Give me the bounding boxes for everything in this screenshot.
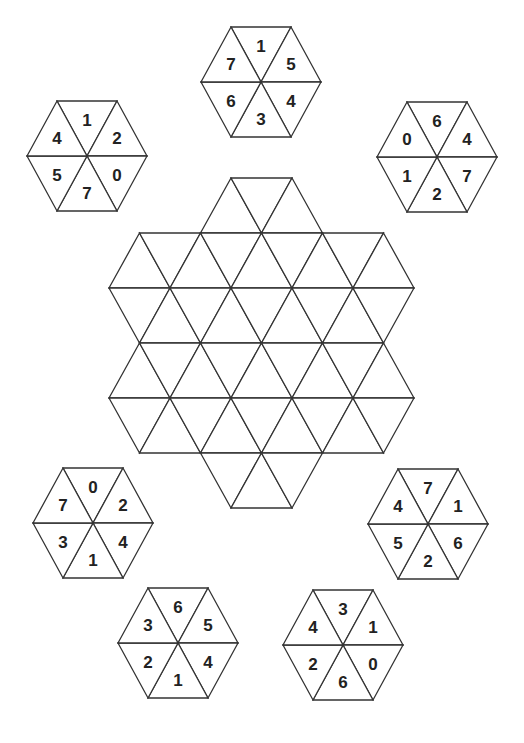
tile-digit: 1 xyxy=(82,111,91,130)
tile-digit: 3 xyxy=(143,616,152,635)
tile-digit: 6 xyxy=(173,598,182,617)
tile-digit: 4 xyxy=(393,497,403,516)
tile-digit: 0 xyxy=(112,166,121,185)
tile-digit: 2 xyxy=(432,185,441,204)
tile-digit: 2 xyxy=(308,655,317,674)
tile-digit: 5 xyxy=(393,534,402,553)
tile-digit: 3 xyxy=(58,533,67,552)
tile-lower-right[interactable]: 716254 xyxy=(368,469,488,579)
tile-digit: 6 xyxy=(432,112,441,131)
tile-digit: 6 xyxy=(453,534,462,553)
tile-digit: 0 xyxy=(88,478,97,497)
tile-digit: 1 xyxy=(256,37,265,56)
central-triangle-grid xyxy=(109,178,414,508)
tile-digit: 0 xyxy=(402,130,411,149)
tile-digit: 4 xyxy=(308,618,318,637)
tile-lower-left[interactable]: 024137 xyxy=(33,468,153,578)
tile-digit: 7 xyxy=(58,496,67,515)
tile-digit: 1 xyxy=(173,671,182,690)
tile-digit: 4 xyxy=(286,92,296,111)
tile-digit: 5 xyxy=(286,55,295,74)
tile-digit: 4 xyxy=(203,653,213,672)
tile-digit: 5 xyxy=(203,616,212,635)
tile-digit: 5 xyxy=(52,166,61,185)
tile-digit: 4 xyxy=(118,533,128,552)
tile-digit: 4 xyxy=(462,130,472,149)
tile-upper-left[interactable]: 120754 xyxy=(27,101,147,211)
tile-digit: 7 xyxy=(462,167,471,186)
tile-digit: 7 xyxy=(423,479,432,498)
tile-digit: 2 xyxy=(143,653,152,672)
tile-digit: 4 xyxy=(52,129,62,148)
puzzle-canvas: 1543671207546472100241377162546541233106… xyxy=(0,0,524,743)
tile-digit: 6 xyxy=(338,673,347,692)
tile-digit: 1 xyxy=(402,167,411,186)
tile-top[interactable]: 154367 xyxy=(201,27,321,137)
tile-digit: 7 xyxy=(226,55,235,74)
tile-digit: 2 xyxy=(118,496,127,515)
tile-upper-right[interactable]: 647210 xyxy=(377,102,497,212)
tile-digit: 1 xyxy=(453,497,462,516)
tile-digit: 7 xyxy=(82,184,91,203)
tile-digit: 2 xyxy=(112,129,121,148)
tile-digit: 0 xyxy=(368,655,377,674)
tile-digit: 6 xyxy=(226,92,235,111)
tile-digit: 3 xyxy=(256,110,265,129)
tile-digit: 1 xyxy=(368,618,377,637)
tile-digit: 1 xyxy=(88,551,97,570)
tile-digit: 3 xyxy=(338,600,347,619)
tile-bottom-right[interactable]: 310624 xyxy=(283,590,403,700)
tile-bottom-left[interactable]: 654123 xyxy=(118,588,238,698)
tile-digit: 2 xyxy=(423,552,432,571)
